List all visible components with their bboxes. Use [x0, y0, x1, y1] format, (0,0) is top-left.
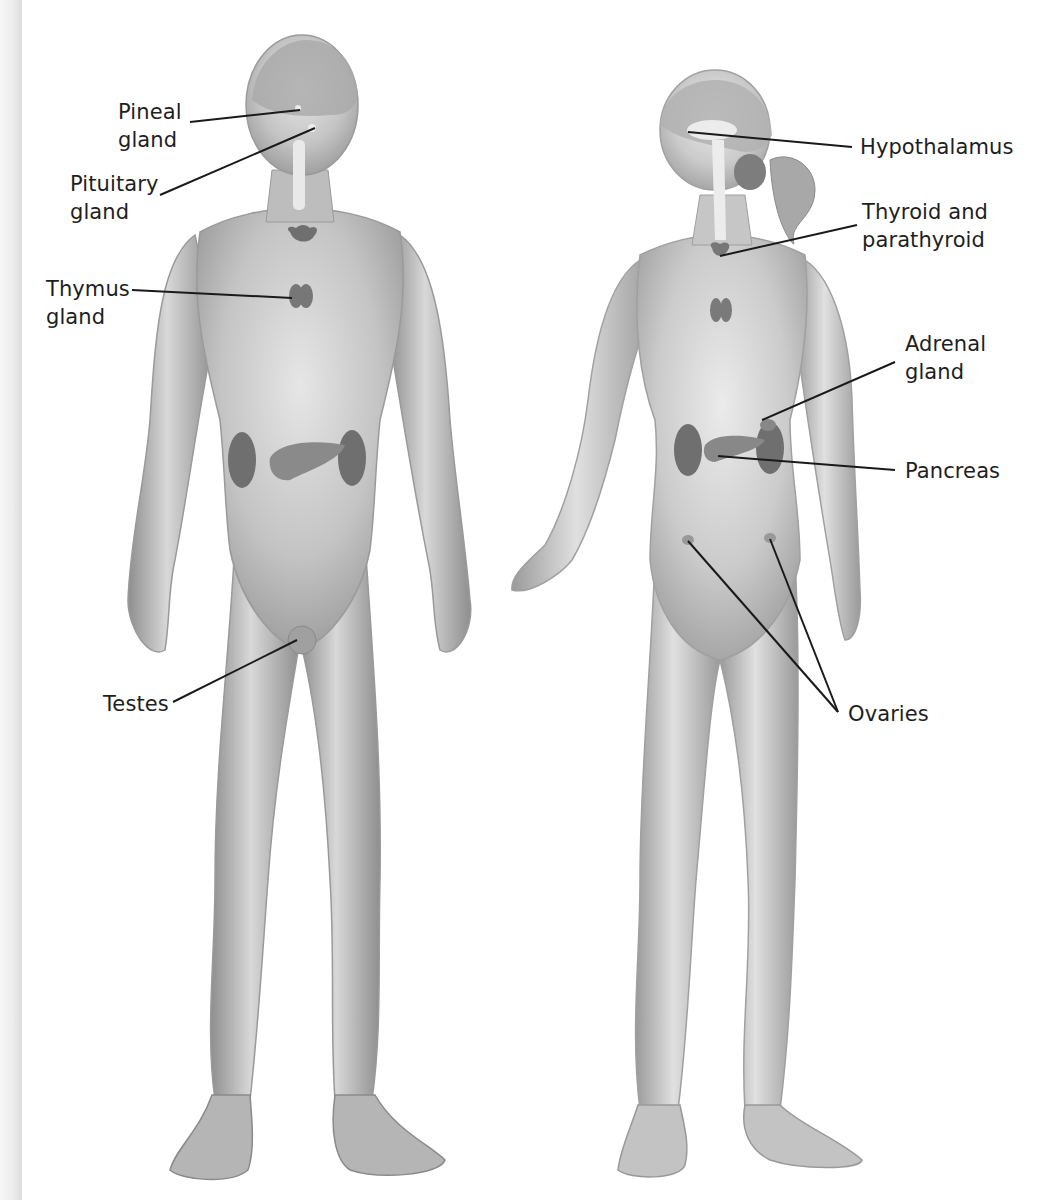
label-adrenal-gland: Adrenal gland	[905, 330, 986, 386]
male-figure	[128, 35, 471, 1179]
endocrine-figure: Pineal gland Pituitary gland Thymus glan…	[0, 0, 1053, 1200]
label-pancreas: Pancreas	[905, 457, 1000, 485]
label-thyroid-parathyroid: Thyroid and parathyroid	[862, 198, 988, 254]
label-pineal-gland: Pineal gland	[118, 98, 182, 154]
label-thymus-gland: Thymus gland	[46, 275, 130, 331]
label-pituitary-gland: Pituitary gland	[70, 170, 158, 226]
label-testes: Testes	[103, 690, 169, 718]
label-ovaries: Ovaries	[848, 700, 929, 728]
label-hypothalamus: Hypothalamus	[860, 133, 1013, 161]
